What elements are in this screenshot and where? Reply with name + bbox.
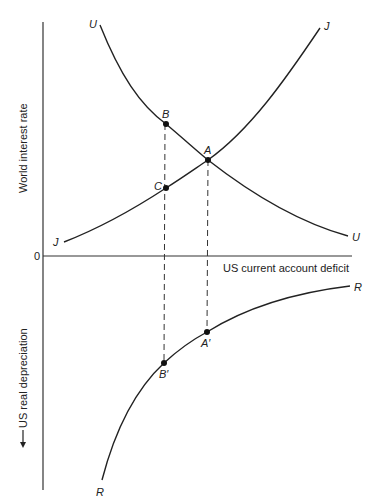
diagram-canvas: U U J J R R B A C A′ B′ 0 US current acc… bbox=[0, 0, 377, 503]
label-r-top: R bbox=[354, 281, 362, 293]
dashed-guide-a bbox=[207, 160, 208, 332]
label-u-right: U bbox=[352, 231, 360, 243]
rr-curve bbox=[102, 286, 350, 480]
point-a bbox=[205, 157, 211, 163]
label-b-prime: B′ bbox=[159, 368, 169, 380]
jj-curve bbox=[64, 28, 320, 242]
dashed-guide-b bbox=[164, 124, 165, 363]
point-b bbox=[163, 121, 169, 127]
label-b: B bbox=[162, 108, 169, 120]
label-a-prime: A′ bbox=[200, 337, 211, 349]
label-j-top: J bbox=[323, 20, 330, 32]
down-arrow-head-icon bbox=[20, 442, 26, 448]
uu-curve bbox=[100, 25, 348, 236]
label-a: A bbox=[203, 144, 211, 156]
label-u-top: U bbox=[89, 18, 97, 30]
origin-label: 0 bbox=[34, 250, 40, 262]
y-axis-label-bottom: US real depreciation bbox=[17, 328, 29, 428]
y-axis-label-top: World interest rate bbox=[17, 103, 29, 193]
label-r-bottom: R bbox=[96, 486, 104, 498]
point-b-prime bbox=[161, 360, 167, 366]
x-axis-label: US current account deficit bbox=[223, 262, 349, 274]
label-c: C bbox=[154, 180, 162, 192]
point-a-prime bbox=[204, 329, 210, 335]
label-j-left: J bbox=[52, 236, 59, 248]
point-c bbox=[163, 185, 169, 191]
